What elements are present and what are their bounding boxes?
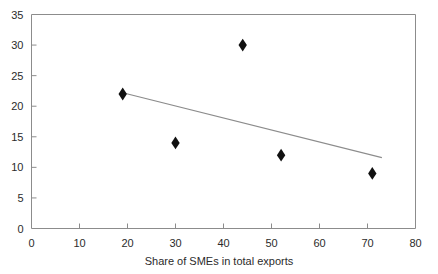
data-point-marker [368, 167, 376, 180]
y-tick-label: 15 [0, 131, 24, 143]
x-tick-label: 40 [204, 237, 244, 249]
x-tick-label: 10 [60, 237, 100, 249]
data-point-marker [239, 39, 247, 52]
y-tick-label: 30 [0, 39, 24, 51]
y-axis-ticks [32, 45, 37, 198]
plot-frame [32, 15, 416, 229]
y-tick-label: 0 [0, 223, 24, 235]
x-tick-label: 20 [108, 237, 148, 249]
x-tick-label: 60 [300, 237, 340, 249]
data-point-marker [171, 137, 179, 150]
x-axis-title: Share of SMEs in total exports [0, 255, 438, 268]
x-tick-label: 50 [252, 237, 292, 249]
x-tick-label: 70 [348, 237, 388, 249]
data-point-marker [277, 149, 285, 162]
y-tick-label: 20 [0, 100, 24, 112]
trendline [123, 93, 382, 158]
x-axis-ticks [80, 224, 368, 229]
scatter-chart: 05101520253035 01020304050607080 Share o… [0, 0, 438, 274]
plot-border [32, 15, 416, 229]
y-tick-label: 35 [0, 9, 24, 21]
y-tick-label: 10 [0, 161, 24, 173]
trendline-segment [123, 93, 382, 158]
plot-area-svg [0, 0, 438, 274]
x-tick-label: 30 [156, 237, 196, 249]
data-point-marker [119, 88, 127, 101]
data-points [119, 39, 377, 180]
x-tick-label: 80 [396, 237, 436, 249]
y-tick-label: 25 [0, 70, 24, 82]
y-tick-label: 5 [0, 192, 24, 204]
x-tick-label: 0 [12, 237, 52, 249]
